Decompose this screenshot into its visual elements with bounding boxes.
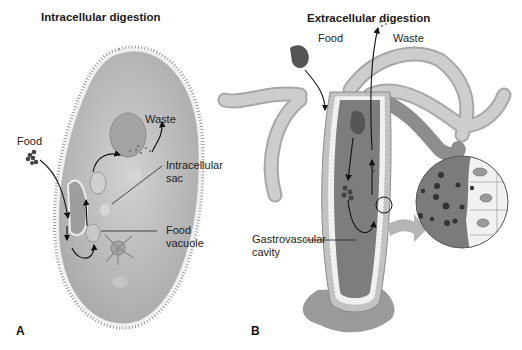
panel-letter-b: B [251,324,260,338]
panel-letter-a: A [16,324,25,338]
panel-a-title: Intracellular digestion [41,11,161,23]
diagram-canvas [0,0,522,350]
label-food-vacuole: Food vacuole [166,224,204,250]
food-particles-a [26,150,39,165]
label-food-b: Food [318,32,343,45]
label-gastrovascular-line2: cavity [252,246,280,258]
label-gastrovascular-cavity: Gastrovascular cavity [252,233,326,259]
panel-b-title: Extracellular digestion [307,12,430,24]
label-food-vacuole-line2: vacuole [166,237,204,249]
label-intracellular-sac-line2: sac [166,172,183,184]
paramecium-cell [57,50,200,325]
food-chunk-b [290,45,309,68]
label-waste-b: Waste [393,32,424,45]
label-intracellular-sac-line1: Intracellular [166,159,223,171]
label-food-vacuole-line1: Food [166,224,191,236]
label-intracellular-sac: Intracellular sac [166,159,223,185]
cell-detail-magnified [416,150,520,260]
label-food-a: Food [17,135,42,148]
label-gastrovascular-line1: Gastrovascular [252,233,326,245]
label-waste-a: Waste [145,113,176,126]
